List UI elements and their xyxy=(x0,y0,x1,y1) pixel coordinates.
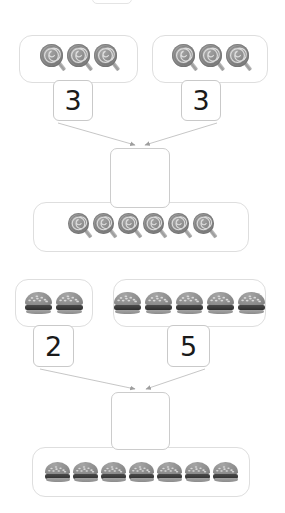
burger-top-bun xyxy=(25,292,52,306)
burger-row-addend-1 xyxy=(25,292,83,314)
burger-bottom-bun xyxy=(115,310,140,314)
burger-bottom-bun xyxy=(186,478,210,482)
result-group-container-lollipops xyxy=(33,202,249,252)
hamburger-icon xyxy=(56,292,83,314)
burger-bottom-bun xyxy=(208,310,233,314)
lollipop-icon xyxy=(143,213,164,241)
hamburger-icon xyxy=(45,462,70,482)
arrow-addend1-to-answer xyxy=(58,123,135,145)
arrow-addend3-to-answer xyxy=(40,369,135,389)
lollipop-icon xyxy=(172,44,195,75)
lollipop-row-addend-1 xyxy=(40,44,117,75)
lollipop-icon xyxy=(118,213,139,241)
lollipop-icon xyxy=(168,213,189,241)
lollipop-icon xyxy=(94,44,117,75)
burger-bottom-bun xyxy=(239,310,264,314)
lollipop-icon xyxy=(67,44,90,75)
burger-top-bun xyxy=(145,292,172,306)
burger-top-bun xyxy=(207,292,234,306)
hamburger-icon xyxy=(207,292,234,314)
burger-bottom-bun xyxy=(74,478,98,482)
addend-group-3-container xyxy=(15,279,93,327)
hamburger-icon xyxy=(185,462,210,482)
lollipop-icon xyxy=(68,213,89,241)
lollipop-icon xyxy=(93,213,114,241)
hamburger-icon xyxy=(238,292,265,314)
addend-number-box-3[interactable]: 2 xyxy=(33,325,74,367)
lollipop-row-addend-2 xyxy=(172,44,249,75)
burger-row-addend-2 xyxy=(114,292,265,314)
burger-top-bun xyxy=(114,292,141,306)
hamburger-icon xyxy=(145,292,172,314)
addend-group-2-container xyxy=(152,35,268,83)
lollipop-icon xyxy=(199,44,222,75)
burger-bottom-bun xyxy=(102,478,126,482)
lollipop-icon xyxy=(193,213,214,241)
addend-group-1-container xyxy=(19,35,138,83)
burger-bottom-bun xyxy=(46,478,70,482)
burger-bottom-bun xyxy=(146,310,171,314)
result-group-container-hamburgers xyxy=(32,447,250,497)
hamburger-icon xyxy=(73,462,98,482)
addend-number-box-2[interactable]: 3 xyxy=(181,80,221,121)
hamburger-icon xyxy=(114,292,141,314)
burger-row-result xyxy=(45,462,238,482)
arrow-addend2-to-answer xyxy=(145,123,217,145)
burger-bottom-bun xyxy=(26,310,51,314)
burger-bottom-bun xyxy=(158,478,182,482)
cropped-box-above xyxy=(92,0,132,4)
answer-box-lollipops[interactable] xyxy=(110,148,170,208)
worksheet-canvas: 3 3 2 5 xyxy=(0,0,285,513)
addend-group-4-container xyxy=(113,279,266,327)
hamburger-icon xyxy=(129,462,154,482)
burger-top-bun xyxy=(56,292,83,306)
burger-bottom-bun xyxy=(177,310,202,314)
addend-number-box-1[interactable]: 3 xyxy=(53,80,93,121)
hamburger-icon xyxy=(176,292,203,314)
burger-bottom-bun xyxy=(130,478,154,482)
hamburger-icon xyxy=(157,462,182,482)
answer-box-hamburgers[interactable] xyxy=(111,392,170,450)
hamburger-icon xyxy=(25,292,52,314)
lollipop-row-result xyxy=(68,213,214,241)
lollipop-icon xyxy=(226,44,249,75)
addend-number-box-4[interactable]: 5 xyxy=(167,325,210,367)
hamburger-icon xyxy=(101,462,126,482)
lollipop-icon xyxy=(40,44,63,75)
burger-top-bun xyxy=(176,292,203,306)
burger-bottom-bun xyxy=(214,478,238,482)
hamburger-icon xyxy=(213,462,238,482)
arrow-addend4-to-answer xyxy=(146,369,205,389)
burger-bottom-bun xyxy=(57,310,82,314)
burger-top-bun xyxy=(238,292,265,306)
